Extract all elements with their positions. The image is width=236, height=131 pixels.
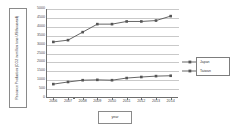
x-tick-label: 2007 [64,100,72,104]
y-tick-label: 500 [39,87,45,91]
data-point [81,31,84,34]
data-point [96,79,99,82]
y-tick-label: 3500 [37,34,45,38]
data-point [125,77,128,80]
y-tick-label: 2500 [37,52,45,56]
data-point [52,41,55,44]
data-point [111,23,114,26]
legend-label-taiwan: Taiwan [199,70,211,74]
y-tick-label: 4000 [37,25,45,29]
x-tick-label: 2012 [137,100,145,104]
data-point [169,15,172,18]
x-tick-label: 2010 [108,100,116,104]
data-series-layer [46,9,178,98]
data-point [81,79,84,82]
y-tick-label: 5000 [37,7,45,11]
legend-marker-taiwan [189,70,192,73]
data-point [111,79,114,82]
data-point [52,83,55,86]
chart-figure: Resource Production (CO2 in million tons… [0,0,236,131]
x-tick-mark [112,98,113,100]
x-tick-mark [68,98,69,100]
x-axis-title: year [112,116,119,120]
y-tick-label: 3000 [37,43,45,47]
x-tick-label: 2008 [79,100,87,104]
y-axis-tick-labels: 0500100015002000250030003500400045005000 [28,5,45,102]
data-point [96,23,99,26]
y-tick-label: 2000 [37,61,45,65]
y-tick-label: 4500 [37,16,45,20]
x-tick-label: 2014 [167,100,175,104]
data-point [67,39,70,42]
x-tick-mark [171,98,172,100]
y-tick-mark [73,98,75,99]
x-axis-title-box: year [98,111,132,124]
data-point [155,75,158,78]
x-tick-mark [97,98,98,100]
x-tick-mark [53,98,54,100]
data-point [140,20,143,23]
y-axis-title-box: Resource Production (CO2 in million tons… [9,8,27,108]
x-tick-label: 2009 [93,100,101,104]
x-tick-label: 2013 [152,100,160,104]
y-tick-label: 1000 [37,78,45,82]
x-tick-mark [127,98,128,100]
y-tick-label: 1500 [37,70,45,74]
data-point [140,76,143,79]
x-tick-label: 2006 [49,100,57,104]
data-point [155,19,158,22]
chart-legend: Japan Taiwan [196,57,230,76]
legend-label-japan: Japan [199,61,210,65]
x-tick-mark [83,98,84,100]
x-tick-label: 2011 [123,100,131,104]
legend-item-0: Japan [199,59,229,67]
legend-marker-japan [189,61,192,64]
series-line-japan [53,16,170,42]
data-point [125,20,128,23]
x-tick-mark [141,98,142,100]
y-tick-label: 0 [43,96,45,100]
x-tick-mark [156,98,157,100]
data-point [169,74,172,77]
x-axis-tick-labels: 200620072008200920102011201220132014 [46,100,178,109]
legend-item-1: Taiwan [199,68,229,76]
y-axis-title: Resource Production (CO2 in million tons… [16,16,19,100]
data-point [67,81,70,84]
